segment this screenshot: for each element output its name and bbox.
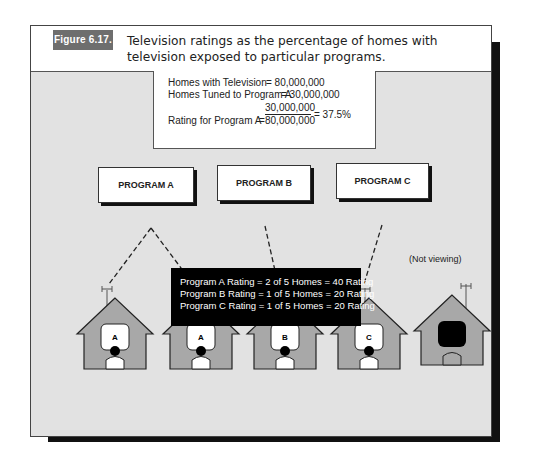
house-1: A — [77, 286, 153, 369]
svg-text:A: A — [112, 333, 118, 342]
house-5-not-viewing — [414, 283, 490, 365]
figure-frame: Figure 6.17. Television ratings as the p… — [30, 25, 492, 437]
summary-program-a: Program A Rating = 2 of 5 Homes = 40 Rat… — [180, 276, 361, 288]
summary-program-b: Program B Rating = 1 of 5 Homes = 20 Rat… — [180, 288, 361, 300]
svg-text:A: A — [198, 333, 204, 342]
ratings-summary: Program A Rating = 2 of 5 Homes = 40 Rat… — [171, 268, 361, 326]
not-viewing-label: (Not viewing) — [409, 254, 462, 264]
summary-program-c: Program C Rating = 1 of 5 Homes = 20 Rat… — [180, 300, 361, 312]
program-a-box: PROGRAM A — [98, 167, 194, 203]
svg-text:B: B — [282, 333, 288, 342]
program-c-box: PROGRAM C — [336, 163, 429, 199]
ratings-diagram: A A B — [31, 26, 491, 436]
program-b-box: PROGRAM B — [217, 165, 311, 201]
svg-text:C: C — [366, 333, 372, 342]
